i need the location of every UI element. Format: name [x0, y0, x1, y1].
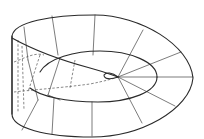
meridian-line	[52, 98, 54, 134]
hidden-line	[28, 55, 40, 92]
meridian-line	[48, 58, 60, 95]
meridian-line	[28, 60, 38, 100]
wireframe-surface	[0, 0, 204, 139]
hidden-line	[70, 60, 75, 88]
hidden-lower-edge	[14, 77, 118, 92]
surface-diagram	[0, 0, 204, 139]
middle-ellipse-lower	[30, 77, 157, 102]
meridian-line	[52, 16, 58, 55]
meridian-line	[24, 27, 28, 60]
radial-line	[118, 30, 143, 77]
outer-boundary	[12, 15, 193, 137]
hidden-line	[22, 46, 24, 110]
meridian-line	[22, 100, 38, 130]
middle-ellipse-upper	[40, 51, 157, 77]
meridian-line	[93, 15, 95, 55]
hidden-left-band	[14, 54, 44, 62]
